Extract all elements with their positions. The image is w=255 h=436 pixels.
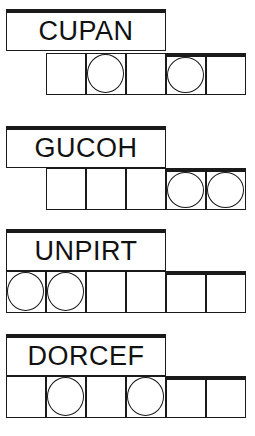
letter-cell[interactable] xyxy=(126,168,166,210)
circle-marker-icon xyxy=(167,57,204,93)
letter-cell-circled[interactable] xyxy=(166,53,206,95)
scrambled-word: GUCOH xyxy=(6,126,166,168)
letter-cell-circled[interactable] xyxy=(126,376,166,418)
letter-cell[interactable] xyxy=(206,271,246,313)
letter-cell[interactable] xyxy=(86,376,126,418)
letter-cell[interactable] xyxy=(206,53,246,95)
letter-cell[interactable] xyxy=(46,168,86,210)
scrambled-word: DORCEF xyxy=(6,334,166,376)
letter-cell-circled[interactable] xyxy=(6,271,46,313)
letter-cell[interactable] xyxy=(206,376,246,418)
letter-cell[interactable] xyxy=(126,271,166,313)
letter-cell[interactable] xyxy=(46,53,86,95)
letter-cell-circled[interactable] xyxy=(86,53,126,95)
letter-cell-circled[interactable] xyxy=(46,271,86,313)
circle-marker-icon xyxy=(47,377,84,416)
circle-marker-icon xyxy=(167,172,204,208)
circle-marker-icon xyxy=(47,272,84,311)
circle-marker-icon xyxy=(207,172,244,208)
letter-cell-circled[interactable] xyxy=(46,376,86,418)
letter-cell[interactable] xyxy=(6,376,46,418)
circle-marker-icon xyxy=(7,272,44,311)
letter-cell-circled[interactable] xyxy=(206,168,246,210)
letter-cell[interactable] xyxy=(166,376,206,418)
letter-cell[interactable] xyxy=(126,53,166,95)
letter-cell[interactable] xyxy=(166,271,206,313)
letter-cell[interactable] xyxy=(86,168,126,210)
circle-marker-icon xyxy=(87,54,124,93)
letter-cell-circled[interactable] xyxy=(166,168,206,210)
circle-marker-icon xyxy=(127,377,164,416)
scrambled-word: CUPAN xyxy=(6,9,166,51)
letter-cell[interactable] xyxy=(86,271,126,313)
scrambled-word: UNPIRT xyxy=(6,229,166,271)
